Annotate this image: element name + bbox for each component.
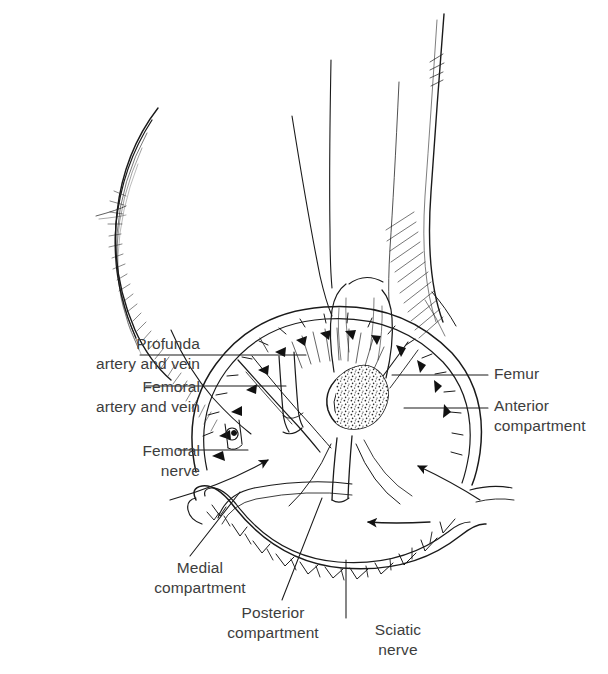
thigh-outline-right [386,14,456,338]
label-anterior-compartment: Anterior compartment [494,396,606,436]
label-femoral-nerve: Femoral nerve [14,441,200,481]
label-medial-compartment: Medial compartment [130,558,270,598]
label-sciatic-nerve: Sciatic nerve [348,620,448,660]
arrow-anterior [418,466,480,500]
label-profunda-artery-and-vein: Profunda artery and vein [14,334,200,374]
femur-bone [327,277,396,438]
pointer-arrows [170,460,480,523]
arrow-posterior [368,522,430,523]
figure-canvas: Profunda artery and vein Femoral artery … [0,0,608,674]
label-femoral-artery-and-vein: Femoral artery and vein [14,377,200,417]
label-posterior-compartment: Posterior compartment [198,603,348,643]
label-femur: Femur [494,364,604,384]
central-muscle-planes [292,60,399,316]
